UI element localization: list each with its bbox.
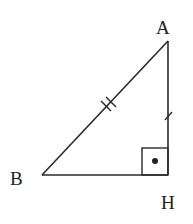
right-angle-marker [142, 148, 168, 175]
right-angle-dot [152, 158, 158, 164]
vertex-label-b: B [10, 168, 23, 189]
vertex-label-h: H [161, 192, 175, 213]
segment-ab [42, 41, 168, 175]
right-triangle-diagram: A B H [0, 0, 193, 224]
vertex-label-a: A [156, 17, 170, 38]
